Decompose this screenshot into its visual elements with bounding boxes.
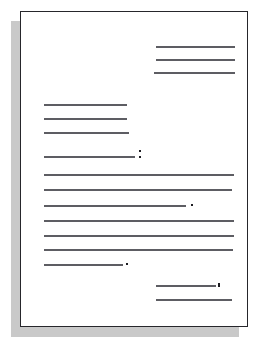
salutation-colon-upper-dot [139,150,141,152]
address-line-1 [44,104,127,106]
body2-line-3 [44,249,233,251]
body2-line-1 [44,220,234,222]
body1-line-1 [44,174,234,176]
body2-terminal-period [126,263,128,265]
body2-line-4 [44,264,123,266]
body1-line-2 [44,189,232,191]
letter-page [20,11,248,327]
letter-layout-figure [0,0,271,348]
address-line-2 [44,118,127,120]
heading-line-1 [156,46,235,48]
address-line-3 [44,132,129,134]
salutation-line [44,156,135,158]
close-line [156,285,216,287]
heading-line-3 [154,72,235,74]
signature-line [156,299,232,301]
close-terminal-comma [218,283,220,286]
salutation-colon-lower-dot [139,156,141,158]
body1-terminal-period [191,204,193,206]
heading-line-2 [156,59,235,61]
body1-line-3 [44,205,186,207]
body2-line-2 [44,235,234,237]
